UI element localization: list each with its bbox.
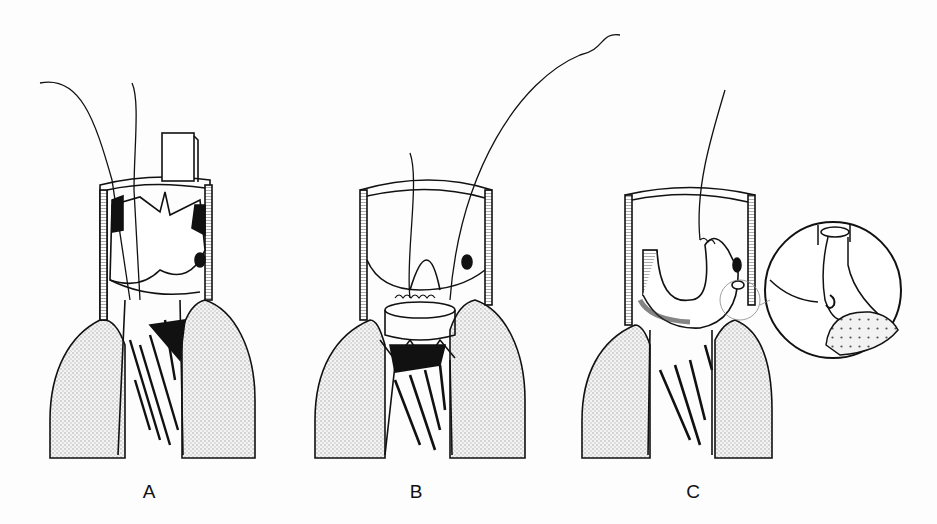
surgical-illustration: A B C	[0, 0, 937, 524]
panel-label-a: A	[143, 481, 156, 503]
magnified-inset	[760, 222, 901, 358]
diagram-artwork	[0, 0, 937, 524]
panel-label-b: B	[410, 481, 423, 503]
panel-label-c: C	[686, 481, 700, 503]
panel-a-drawing	[40, 82, 255, 458]
panel-b-drawing	[315, 35, 620, 458]
panel-c-drawing	[582, 90, 772, 458]
